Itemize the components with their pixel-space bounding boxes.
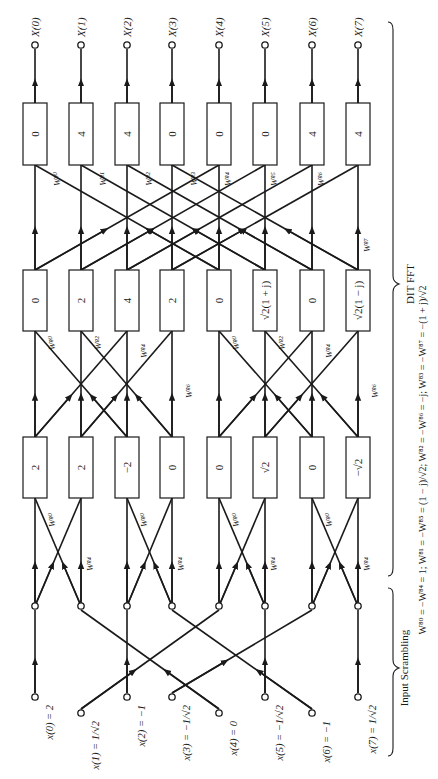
stage3-twiddle-5: W⁸⁵ xyxy=(269,172,279,186)
scramble-node-5 xyxy=(262,603,268,609)
stage3-value-1: 4 xyxy=(75,131,87,137)
stage3-twiddle-2: W⁸² xyxy=(144,172,154,186)
stage2-twiddle-6: W⁸⁴ xyxy=(324,344,334,358)
stage2-twiddle-4: W⁸⁰ xyxy=(231,335,241,350)
stage1-value-7: −√2 xyxy=(352,459,364,477)
output-label-2: X(2) xyxy=(121,17,134,38)
input-scrambling-label: Input Scrambling xyxy=(398,629,410,706)
stage2-value-7: √2(1 − j) xyxy=(352,281,365,320)
output-node-2 xyxy=(124,42,130,48)
flow-arrow xyxy=(219,397,254,437)
stage3-twiddle-0: W⁸⁰ xyxy=(52,171,62,186)
scramble-node-4 xyxy=(216,603,222,609)
input-label-0: x(0) = 2 xyxy=(44,704,56,740)
flow-arrow xyxy=(35,397,70,437)
stage2-twiddle-7: W⁸⁶ xyxy=(370,384,380,398)
output-label-6: X(6) xyxy=(306,17,319,38)
flow-arrow xyxy=(35,565,52,606)
scramble-node-6 xyxy=(309,603,315,609)
stage1-value-6: 0 xyxy=(306,464,318,470)
stage1-twiddle-3: W⁸⁴ xyxy=(176,557,186,571)
flow-arrow xyxy=(127,565,144,606)
input-node-2 xyxy=(124,694,130,700)
twiddle-identities-footnote: W⁸⁰ = −W⁸⁴ = 1; W⁸¹ = −W⁸⁵ = (1 − j)/√2;… xyxy=(417,285,429,634)
stage2-twiddle-0: W⁸⁰ xyxy=(47,335,57,350)
input-label-7: x(7) = 1/√2 xyxy=(367,704,379,754)
output-column xyxy=(35,49,358,103)
output-node-4 xyxy=(216,42,222,48)
flow-arrow xyxy=(127,230,197,270)
stage2-twiddle-1: W⁸² xyxy=(93,336,103,350)
output-node-7 xyxy=(355,42,361,48)
flow-arrow xyxy=(81,230,151,270)
flow-arrow xyxy=(195,230,265,270)
stage1-twiddle-1: W⁸⁴ xyxy=(85,557,95,571)
fft-brace xyxy=(388,22,399,576)
output-node-5 xyxy=(262,42,268,48)
flow-arrow xyxy=(287,230,358,270)
input-node-4 xyxy=(216,710,222,716)
stage3-value-0: 0 xyxy=(29,131,41,137)
flow-arrow xyxy=(167,671,219,709)
stage1-twiddle-5: W⁸⁴ xyxy=(269,557,279,571)
flow-arrow xyxy=(172,661,225,693)
flow-arrow xyxy=(312,565,329,606)
stage1-value-3: 0 xyxy=(166,464,178,470)
input-label-2: x(2) = −1 xyxy=(136,705,148,748)
flow-arrow xyxy=(81,671,133,709)
stage2-value-5: √2(1 + j) xyxy=(259,281,272,320)
stage2-twiddle-2: W⁸⁴ xyxy=(139,344,149,358)
flow-arrow xyxy=(248,565,265,606)
stage1-twiddle-7: W⁸⁴ xyxy=(362,557,372,571)
stage2-twiddle-3: W⁸⁶ xyxy=(184,384,194,398)
stage1-value-4: 0 xyxy=(213,464,225,470)
input-node-1 xyxy=(78,710,84,716)
stage1-twiddle-4: W⁸⁰ xyxy=(231,512,241,527)
output-label-4: X(4) xyxy=(213,17,226,38)
stage1-twiddle-6: W⁸⁰ xyxy=(324,512,334,527)
output-node-3 xyxy=(169,42,175,48)
fft-brace-label: DIT FFT xyxy=(404,264,416,304)
scramble-node-2 xyxy=(124,603,130,609)
stage1-twiddle-0: W⁸⁰ xyxy=(47,512,57,527)
input-label-6: x(6) = −1 xyxy=(321,721,333,764)
stage3-twiddle-6: W⁸⁶ xyxy=(316,172,326,186)
stage2-value-0: 0 xyxy=(29,297,41,303)
stage3-twiddle-7: W⁸⁷ xyxy=(362,238,372,252)
flow-arrow xyxy=(219,565,236,606)
input-label-1: x(1) = 1/√2 xyxy=(90,720,102,770)
stage2-value-1: 2 xyxy=(75,298,87,304)
input-node-5 xyxy=(262,694,268,700)
stage1-value-1: 2 xyxy=(75,465,87,471)
stage1-value-5: √2 xyxy=(259,462,271,474)
output-label-0: X(0) xyxy=(29,17,42,38)
flow-arrow xyxy=(155,565,172,606)
flow-arrow xyxy=(259,671,312,709)
flow-arrow xyxy=(137,397,172,437)
stage3-value-7: 4 xyxy=(352,131,364,137)
output-node-0 xyxy=(32,42,38,48)
stage2-value-2: 4 xyxy=(121,297,133,303)
input-node-6 xyxy=(309,710,315,716)
input-node-7 xyxy=(355,694,361,700)
flow-arrow xyxy=(35,230,105,270)
stage2-value-6: 0 xyxy=(306,297,318,303)
input-node-0 xyxy=(32,694,38,700)
input-label-5: x(5) = −1/√2 xyxy=(274,704,286,761)
stage1-value-0: 2 xyxy=(29,465,41,471)
stage2-value-4: 0 xyxy=(213,297,225,303)
flow-arrow xyxy=(64,565,81,606)
stage1-value-2: −2 xyxy=(121,462,133,474)
stage3-twiddle-3: W⁸³ xyxy=(189,172,199,186)
output-label-5: X(5) xyxy=(259,17,272,38)
flow-arrow xyxy=(341,565,358,606)
scramble-node-1 xyxy=(78,603,84,609)
input-node-3 xyxy=(169,694,175,700)
stage1-twiddle-2: W⁸⁰ xyxy=(139,512,149,527)
stage3-value-4: 0 xyxy=(213,131,225,137)
output-node-1 xyxy=(78,42,84,48)
stage-value-boxes: 0440004402420√2(1 + j)0√2(1 − j)22−200√2… xyxy=(23,103,370,498)
scramble-node-7 xyxy=(355,603,361,609)
stage3-value-6: 4 xyxy=(306,131,318,137)
output-label-7: X(7) xyxy=(352,17,365,38)
